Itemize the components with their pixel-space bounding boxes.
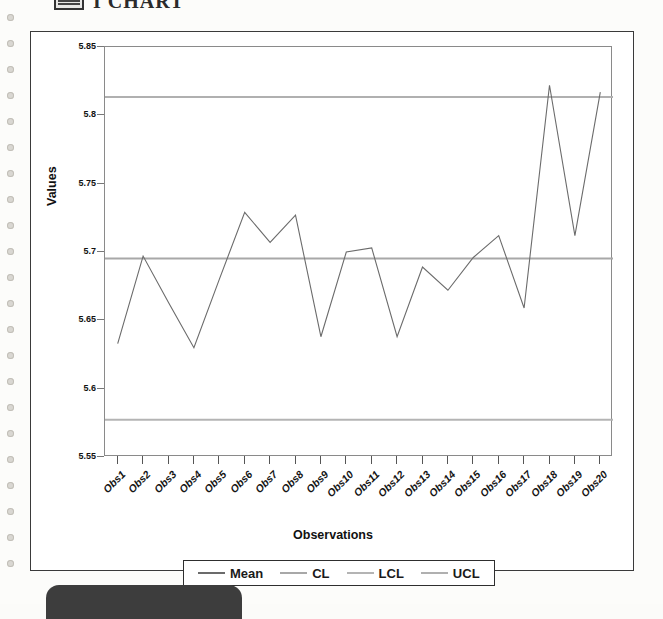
x-axis-tick-mark bbox=[523, 456, 524, 464]
x-axis-tick-labels: Obs1Obs2Obs3Obs4Obs5Obs6Obs7Obs8Obs9Obs1… bbox=[31, 464, 635, 530]
y-axis-tick-mark bbox=[97, 319, 104, 320]
binding-hole bbox=[7, 170, 14, 177]
legend-label: UCL bbox=[453, 566, 480, 581]
binding-hole bbox=[7, 430, 14, 437]
binding-hole bbox=[7, 274, 14, 281]
binding-hole bbox=[7, 118, 14, 125]
y-axis-tick-label: 5.85 bbox=[78, 41, 96, 51]
binding-hole bbox=[7, 352, 14, 359]
x-axis-tick-mark bbox=[574, 456, 575, 464]
legend-item-cl: CL bbox=[280, 566, 329, 581]
page-title: I CHART bbox=[93, 0, 184, 13]
x-axis-tick-mark bbox=[472, 456, 473, 464]
y-axis-tick-mark bbox=[97, 46, 104, 47]
x-axis-tick-mark bbox=[549, 456, 550, 464]
chart-frame: Values 5.855.85.755.75.655.65.55 Obs1Obs… bbox=[30, 31, 634, 571]
x-axis-tick-mark bbox=[320, 456, 321, 464]
x-axis-tick-mark bbox=[295, 456, 296, 464]
x-axis-label: Observations bbox=[31, 528, 635, 542]
binding-hole bbox=[7, 456, 14, 463]
binding-hole bbox=[7, 196, 14, 203]
y-axis-tick-mark bbox=[97, 456, 104, 457]
x-axis-tick-mark bbox=[345, 456, 346, 464]
axes-box bbox=[104, 46, 612, 456]
legend-swatch bbox=[280, 572, 307, 574]
x-axis-tick-mark bbox=[269, 456, 270, 464]
chart-svg bbox=[105, 47, 613, 457]
binding-hole bbox=[7, 248, 14, 255]
plot-area: Values 5.855.85.755.75.655.65.55 Obs1Obs… bbox=[31, 32, 635, 572]
page-title-row: I CHART bbox=[54, 0, 184, 13]
spiral-binding-holes bbox=[0, 0, 26, 604]
x-axis-tick-mark bbox=[371, 456, 372, 464]
x-axis-tick-mark bbox=[422, 456, 423, 464]
binding-hole bbox=[7, 508, 14, 515]
y-axis-tick-mark bbox=[97, 183, 104, 184]
legend-item-ucl: UCL bbox=[421, 566, 480, 581]
binding-hole bbox=[7, 300, 14, 307]
x-axis-tick-mark bbox=[142, 456, 143, 464]
x-axis-tick-mark bbox=[599, 456, 600, 464]
y-axis-tick-label: 5.75 bbox=[78, 178, 96, 188]
x-axis-tick-mark bbox=[447, 456, 448, 464]
binding-hole bbox=[7, 66, 14, 73]
x-axis-tick-mark bbox=[218, 456, 219, 464]
legend-swatch bbox=[347, 572, 374, 574]
binding-hole bbox=[7, 482, 14, 489]
legend-item-mean: Mean bbox=[198, 566, 263, 581]
y-axis-ticks: 5.855.85.755.75.655.65.55 bbox=[31, 32, 106, 472]
binding-hole bbox=[7, 222, 14, 229]
y-axis-tick-label: 5.8 bbox=[83, 109, 96, 119]
binding-hole bbox=[7, 326, 14, 333]
x-axis-tick-mark bbox=[498, 456, 499, 464]
binding-hole bbox=[7, 534, 14, 541]
y-axis-tick-mark bbox=[97, 388, 104, 389]
binding-hole bbox=[7, 560, 14, 567]
legend-label: Mean bbox=[230, 566, 263, 581]
y-axis-tick-label: 5.65 bbox=[78, 314, 96, 324]
y-axis-tick-label: 5.7 bbox=[83, 246, 96, 256]
binding-hole bbox=[7, 378, 14, 385]
legend-swatch bbox=[421, 572, 448, 574]
legend-label: LCL bbox=[379, 566, 404, 581]
x-axis-tick-mark bbox=[396, 456, 397, 464]
data-series-line-mean bbox=[118, 85, 601, 347]
binding-hole bbox=[7, 144, 14, 151]
binding-hole bbox=[7, 14, 14, 21]
chart-legend: MeanCLLCLUCL bbox=[183, 560, 495, 586]
binding-hole bbox=[7, 40, 14, 47]
legend-item-lcl: LCL bbox=[347, 566, 404, 581]
binding-hole bbox=[7, 404, 14, 411]
binding-hole bbox=[7, 92, 14, 99]
legend-label: CL bbox=[312, 566, 329, 581]
y-axis-tick-label: 5.6 bbox=[83, 383, 96, 393]
y-axis-tick-mark bbox=[97, 114, 104, 115]
x-axis-tick-mark bbox=[244, 456, 245, 464]
x-axis-tick-mark bbox=[168, 456, 169, 464]
x-axis-tick-mark bbox=[117, 456, 118, 464]
legend-swatch bbox=[198, 572, 225, 574]
x-axis-tick-mark bbox=[193, 456, 194, 464]
y-axis-tick-mark bbox=[97, 251, 104, 252]
chart-grid-icon bbox=[54, 0, 84, 10]
y-axis-tick-label: 5.55 bbox=[78, 451, 96, 461]
page-footer-tab bbox=[46, 585, 242, 619]
